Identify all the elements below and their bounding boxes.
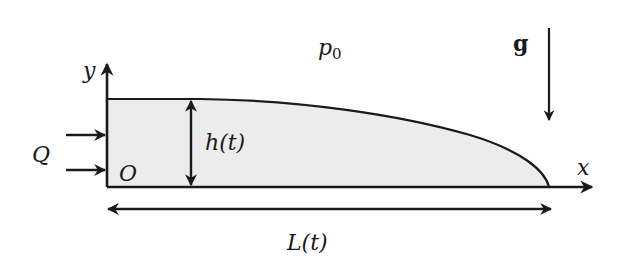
ambient-pressure-label: p0: [318, 35, 342, 63]
origin-label: O: [119, 161, 137, 186]
length-label: L(t): [286, 230, 328, 255]
fluid-region: [107, 99, 549, 187]
gravity-current-diagram: y x O Q h(t) L(t) p0 g: [0, 0, 627, 271]
inflow-label: Q: [32, 142, 50, 167]
y-axis-label: y: [82, 58, 96, 83]
x-axis-label: x: [577, 155, 590, 180]
height-label: h(t): [205, 130, 245, 155]
gravity-label: g: [513, 30, 528, 56]
